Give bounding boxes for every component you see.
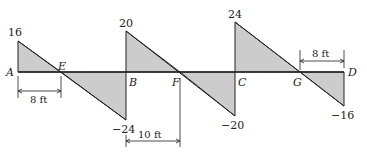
point-F: F (171, 76, 180, 89)
point-C: C (238, 76, 247, 89)
dimension-label-A-E: 8 ft (30, 94, 47, 105)
value-neg20: −20 (221, 119, 244, 132)
shaded-regions (18, 22, 344, 120)
value-16: 16 (8, 26, 22, 39)
value-20: 20 (119, 17, 133, 30)
point-D: D (347, 66, 357, 79)
dimension-label-G-D: 8 ft (312, 48, 329, 59)
value-neg16: −16 (331, 109, 354, 122)
point-B: B (128, 76, 137, 89)
dimension-label-B-F: 10 ft (138, 129, 162, 140)
value-neg24: −24 (112, 123, 135, 136)
point-G: G (293, 76, 302, 89)
shear-diagram: 16 −24 20 −20 24 −16 A E B F C G D 8 ft … (0, 0, 367, 158)
point-A: A (5, 66, 14, 79)
value-24: 24 (228, 8, 242, 21)
point-E: E (57, 60, 66, 73)
